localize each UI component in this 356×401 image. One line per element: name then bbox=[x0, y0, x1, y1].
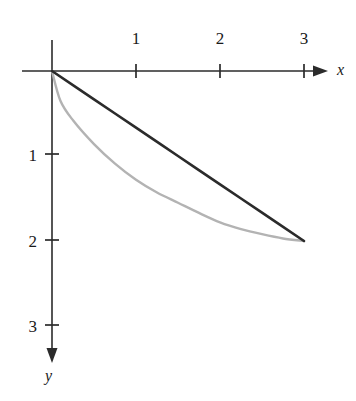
x-tick-label-3: 3 bbox=[294, 30, 314, 47]
y-tick-label-1: 1 bbox=[17, 147, 37, 164]
y-tick-label-2: 2 bbox=[17, 233, 37, 250]
y-axis-arrowhead bbox=[47, 348, 58, 363]
x-axis-label: x bbox=[337, 62, 344, 78]
y-tick-label-3: 3 bbox=[17, 318, 37, 335]
x-tick-label-2: 2 bbox=[210, 30, 230, 47]
plot-canvas bbox=[0, 0, 356, 401]
y-axis-label: y bbox=[45, 368, 52, 384]
x-tick-label-1: 1 bbox=[126, 30, 146, 47]
graph-figure: 1 2 3 1 2 3 x y bbox=[0, 0, 356, 401]
straight-line-chord-path bbox=[52, 71, 304, 241]
x-axis-arrowhead bbox=[313, 66, 328, 77]
